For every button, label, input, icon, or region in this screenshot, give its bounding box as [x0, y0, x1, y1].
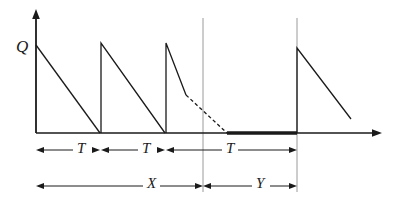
sawtooth-3-solid	[166, 43, 186, 133]
arrow-right-icon	[289, 183, 297, 189]
diagram-canvas	[0, 0, 395, 213]
arrow-left-icon	[36, 147, 44, 153]
y-axis-arrow-icon	[32, 9, 40, 19]
interval-span-x-label: X	[147, 176, 156, 191]
arrow-right-icon	[195, 183, 203, 189]
sawtooth-1	[36, 45, 100, 133]
period-span-1-label: T	[77, 141, 85, 156]
period-span-3-label: T	[226, 141, 234, 156]
period-row	[36, 147, 297, 153]
sawtooth-4	[297, 48, 351, 133]
arrow-left-icon	[101, 147, 109, 153]
arrow-right-icon	[157, 147, 165, 153]
sawtooth-2	[101, 43, 165, 133]
interval-span-y-label: Y	[256, 176, 264, 191]
arrow-left-icon	[166, 147, 174, 153]
x-axis-arrow-icon	[372, 129, 382, 137]
period-span-2-label: T	[142, 141, 150, 156]
arrow-left-icon	[36, 183, 44, 189]
arrow-right-icon	[289, 147, 297, 153]
arrow-right-icon	[92, 147, 100, 153]
arrow-left-icon	[203, 183, 211, 189]
sawtooth-3-dashed	[186, 95, 227, 133]
y-axis-amplitude-label: Q	[16, 38, 28, 55]
timing-diagram-figure: Q T T T X Y	[0, 0, 395, 213]
